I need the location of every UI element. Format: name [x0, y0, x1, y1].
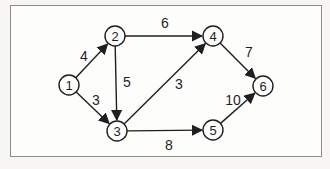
graph-node-label: 6: [259, 79, 266, 94]
edge-3-5: [127, 130, 202, 131]
graph-node-label: 3: [113, 124, 120, 139]
graph-node-label: 4: [209, 29, 216, 44]
nodes-layer: 123456: [59, 26, 273, 141]
edge-weight-label: 6: [161, 15, 169, 31]
directed-graph: 436538710 123456: [0, 0, 330, 169]
graph-node-label: 5: [209, 123, 216, 138]
edge-3-4: [124, 44, 205, 124]
edge-weight-label: 3: [175, 76, 183, 92]
edge-weight-label: 8: [165, 137, 173, 153]
edge-weight-label: 10: [225, 92, 241, 108]
edge-weight-label: 4: [80, 48, 88, 64]
figure-canvas: 436538710 123456: [0, 0, 330, 169]
edge-weight-label: 7: [245, 44, 253, 60]
graph-node-label: 2: [111, 29, 118, 44]
graph-node-label: 1: [65, 78, 72, 93]
edge-weight-label: 3: [92, 92, 100, 108]
edge-weight-label: 5: [123, 74, 131, 90]
edge-2-3: [115, 46, 117, 120]
edges-layer: 436538710: [76, 15, 255, 153]
